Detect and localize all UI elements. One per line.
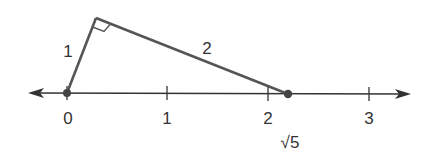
origin-point [63, 89, 71, 97]
triangle-leg-long [96, 18, 288, 94]
tick-label-2: 2 [263, 110, 272, 127]
number-line-diagram [0, 0, 435, 157]
tick-label-1: 1 [162, 110, 171, 127]
number-line-axis [34, 93, 404, 94]
tick-label-3: 3 [364, 110, 373, 127]
tick-label-0: 0 [63, 110, 72, 127]
right-angle-marker [93, 25, 111, 32]
leg-short-label: 1 [63, 43, 72, 60]
leg-long-label: 2 [202, 40, 211, 57]
sqrt5-label: √5 [281, 134, 300, 151]
sqrt5-point [284, 90, 292, 98]
